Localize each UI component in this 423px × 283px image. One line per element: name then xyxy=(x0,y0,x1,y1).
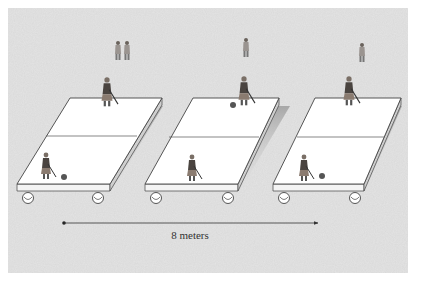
physics-diagram: 8 meters xyxy=(0,0,423,283)
puck-ball-icon xyxy=(230,102,236,108)
distance-label: 8 meters xyxy=(171,229,209,241)
puck-ball-icon xyxy=(319,173,325,179)
wheel-icon xyxy=(279,193,290,204)
wheel-icon xyxy=(23,193,34,204)
wheel-icon xyxy=(350,193,361,204)
wheel-icon xyxy=(93,193,104,204)
wheel-icon xyxy=(223,193,234,204)
wheel-icon xyxy=(151,193,162,204)
puck-ball-icon xyxy=(61,174,67,180)
